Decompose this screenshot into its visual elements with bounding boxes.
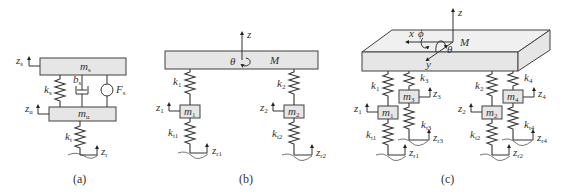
roll-label: ϕ — [418, 27, 424, 39]
y-axis-label: y — [425, 58, 431, 70]
pitch-label: θ — [230, 55, 236, 67]
z-s-label: zs — [15, 54, 23, 68]
k3-label: k3 — [420, 71, 429, 85]
spring-k1-icon — [185, 69, 195, 105]
spring-k3-icon — [404, 71, 414, 90]
panel-c-full-car: M z x ϕ y θ k1 m1 z1 kt1 zr1 k3 m3 — [353, 6, 550, 186]
z1-label: z1 — [155, 101, 164, 115]
pitch-label: θ — [447, 43, 453, 55]
spring-k2-icon — [487, 71, 497, 106]
z-axis-label: z — [457, 6, 463, 18]
z-axis-label: z — [246, 28, 252, 40]
suspension-spring-label: ks — [44, 83, 52, 97]
kt1-label: kt1 — [366, 128, 377, 142]
caption-c: (c) — [441, 172, 454, 186]
k1-label: k1 — [371, 79, 380, 93]
actuator-force-label: Fs — [115, 83, 126, 97]
kt1-label: kt1 — [168, 126, 179, 140]
z-r-label: zr — [100, 145, 108, 159]
kt2-label: kt2 — [272, 127, 283, 141]
tire-spring-icon — [75, 121, 85, 155]
vehicle-suspension-models-figure: ms zs ks bs Fs mu zu kt — [0, 0, 564, 196]
z2-label: z2 — [259, 101, 268, 115]
zr4-label: zr4 — [536, 131, 548, 145]
kt3-label: kt3 — [421, 118, 432, 132]
z-u-label: zu — [24, 102, 33, 116]
actuator-icon — [101, 84, 113, 96]
spring-kt1-icon — [383, 119, 393, 155]
z1-label: z1 — [353, 102, 362, 116]
k2-label: k2 — [475, 79, 484, 93]
spring-kt2-icon — [487, 119, 497, 155]
caption-b: (b) — [239, 172, 253, 186]
spring-kt4-icon — [508, 103, 518, 140]
body-mass-label: M — [269, 54, 280, 66]
panel-b-half-car: M z θ k1 m1 z1 kt1 zr1 k2 m2 z2 kt2 zr2 — [155, 28, 327, 186]
kt2-label: kt2 — [470, 128, 481, 142]
z2-label: z2 — [457, 102, 466, 116]
body-front-face — [362, 52, 518, 71]
z3-label: z3 — [432, 87, 441, 101]
spring-kt2-icon — [289, 118, 299, 155]
k2-label: k2 — [277, 77, 286, 91]
x-axis-label: x — [408, 27, 414, 39]
spring-k4-icon — [508, 71, 518, 90]
caption-a: (a) — [73, 172, 86, 186]
road-surface — [68, 153, 98, 158]
zr3-label: zr3 — [432, 131, 444, 145]
body-top-face — [362, 30, 550, 52]
k4-label: k4 — [524, 71, 533, 85]
zr1-label: zr1 — [211, 144, 223, 158]
tire-spring-label: kt — [65, 130, 72, 144]
z4-label: z4 — [537, 87, 546, 101]
body-mass-label: M — [459, 36, 470, 48]
k1-label: k1 — [173, 75, 182, 89]
spring-kt1-icon — [185, 118, 195, 153]
zr2-label: zr2 — [512, 146, 524, 160]
spring-kt3-icon — [404, 103, 414, 140]
spring-k2-icon — [289, 69, 299, 105]
zr1-label: zr1 — [408, 146, 420, 160]
panel-a-quarter-car: ms zs ks bs Fs mu zu kt — [15, 54, 126, 186]
zr2-label: zr2 — [315, 146, 327, 160]
spring-k1-icon — [383, 71, 393, 106]
kt4-label: kt4 — [524, 118, 535, 132]
suspension-spring-icon — [55, 75, 65, 107]
